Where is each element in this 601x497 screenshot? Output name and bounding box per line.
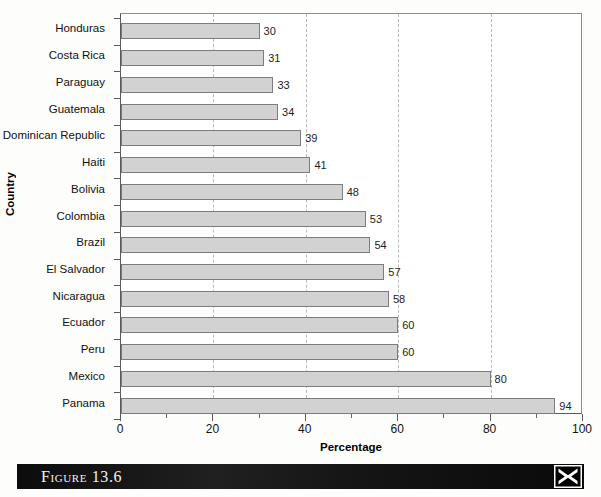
bar-row: 94 [121,398,583,414]
x-tick-major-20 [212,414,213,421]
bar-value-label: 94 [555,400,571,412]
y-axis-label-peru: Peru [0,343,113,355]
bar [121,130,301,146]
y-tick [114,71,121,72]
bar [121,317,398,333]
x-axis-label-100: 100 [572,422,592,436]
y-tick [114,259,121,260]
x-tick-minor-90 [536,414,537,418]
y-tick [114,125,121,126]
y-axis-label-honduras: Honduras [0,22,113,34]
y-axis-label-brazil: Brazil [0,236,113,248]
bar-row: 30 [121,23,583,39]
x-tick-major-80 [490,414,491,421]
y-tick [114,285,121,286]
y-tick [114,178,121,179]
y-axis-label-bolivia: Bolivia [0,183,113,195]
y-tick [114,392,121,393]
bar [121,344,398,360]
y-axis-label-el-salvador: El Salvador [0,263,113,275]
bar-row: 57 [121,264,583,280]
bar-value-label: 34 [278,106,294,118]
plot-area: 303133343941485354575860608094 [120,13,582,414]
bar-value-label: 30 [260,25,276,37]
y-axis-label-paraguay: Paraguay [0,76,113,88]
y-axis-label-costa-rica: Costa Rica [0,49,113,61]
bar-row: 60 [121,344,583,360]
y-axis-label-colombia: Colombia [0,210,113,222]
x-axis-label-0: 0 [117,422,124,436]
bar-value-label: 48 [343,186,359,198]
x-axis-label-40: 40 [298,422,311,436]
x-tick-minor-10 [166,414,167,418]
bar [121,50,264,66]
bar-row: 53 [121,211,583,227]
bar-value-label: 31 [264,52,280,64]
y-tick [114,366,121,367]
y-axis-label-panama: Panama [0,397,113,409]
bar-row: 48 [121,184,583,200]
bar-value-label: 54 [370,239,386,251]
bar [121,237,370,253]
y-tick [114,152,121,153]
bar-value-label: 57 [384,266,400,278]
bar-value-label: 53 [366,213,382,225]
figure-caption-label: Figure 13.6 [41,468,122,486]
bar-value-label: 60 [398,346,414,358]
bar-row: 33 [121,77,583,93]
x-logo-icon [554,465,582,488]
x-axis-title: Percentage [120,441,582,453]
bar [121,184,343,200]
bar [121,157,310,173]
y-tick [114,232,121,233]
x-axis-label-80: 80 [483,422,496,436]
y-tick [114,18,121,19]
y-tick [114,45,121,46]
bar-value-label: 58 [389,293,405,305]
x-axis-label-20: 20 [206,422,219,436]
y-tick [114,205,121,206]
bar-row: 34 [121,104,583,120]
y-axis-label-mexico: Mexico [0,370,113,382]
bar [121,77,273,93]
bar-row: 54 [121,237,583,253]
bar-chart: Country 303133343941485354575860608094 H… [0,0,601,455]
bar [121,264,384,280]
bar-row: 80 [121,371,583,387]
bar-value-label: 39 [301,132,317,144]
y-axis-label-guatemala: Guatemala [0,103,113,115]
bar [121,291,389,307]
bar-value-label: 80 [491,373,507,385]
bar-row: 39 [121,130,583,146]
x-axis-label-60: 60 [391,422,404,436]
bar [121,104,278,120]
x-tick-minor-50 [351,414,352,418]
y-tick [114,339,121,340]
y-axis-label-ecuador: Ecuador [0,316,113,328]
bar [121,398,555,414]
bar-row: 41 [121,157,583,173]
x-tick-major-100 [582,414,583,421]
bar [121,23,260,39]
y-tick [114,98,121,99]
x-tick-major-0 [120,414,121,421]
bar-value-label: 41 [310,159,326,171]
x-tick-minor-70 [443,414,444,418]
bar-row: 31 [121,50,583,66]
y-axis-label-haiti: Haiti [0,156,113,168]
bar-row: 58 [121,291,583,307]
bar [121,371,491,387]
y-axis-label-dominican-republic: Dominican Republic [0,129,113,141]
bar [121,211,366,227]
figure-13-6: Country 303133343941485354575860608094 H… [0,0,601,497]
x-tick-major-60 [397,414,398,421]
y-axis-label-nicaragua: Nicaragua [0,290,113,302]
x-tick-major-40 [305,414,306,421]
figure-caption-bar: Figure 13.6 [17,464,584,489]
bar-value-label: 33 [273,79,289,91]
bar-row: 60 [121,317,583,333]
bar-value-label: 60 [398,319,414,331]
x-tick-minor-30 [259,414,260,418]
y-tick [114,312,121,313]
